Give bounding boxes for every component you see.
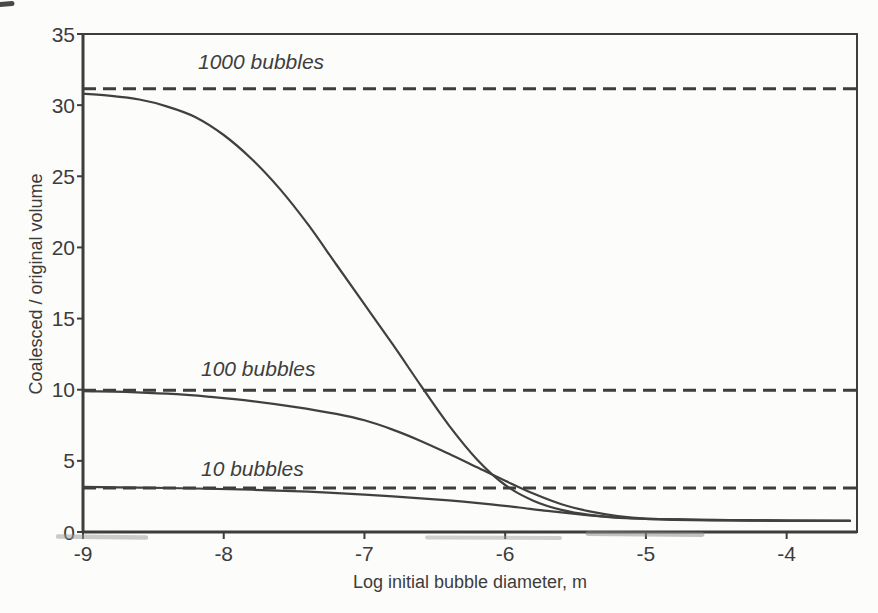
- plot-frame: [83, 34, 857, 532]
- x-tick-label: -9: [74, 542, 93, 565]
- scan-smudge-3: [588, 534, 702, 535]
- x-tick-label: -5: [637, 542, 656, 565]
- annotation-10-bubbles: 10 bubbles: [201, 458, 304, 479]
- series-curve-1000-bubbles: [83, 94, 850, 521]
- y-tick-label: 15: [52, 307, 75, 330]
- x-axis-title: Log initial bubble diameter, m: [83, 572, 857, 593]
- figure: -9-8-7-6-5-405101520253035 Log initial b…: [0, 0, 878, 613]
- y-tick-label: 0: [63, 521, 75, 544]
- y-tick-label: 30: [52, 94, 75, 117]
- bubble-coalescence-chart: -9-8-7-6-5-405101520253035: [0, 0, 878, 613]
- y-tick-label: 5: [63, 449, 75, 472]
- scan-smudge-1: [58, 537, 146, 538]
- scan-mark-top-left: [0, 4, 12, 5]
- y-tick-label: 20: [52, 236, 75, 259]
- scan-smudge-2: [427, 538, 560, 539]
- annotation-100-bubbles: 100 bubbles: [201, 358, 315, 379]
- annotation-1000-bubbles: 1000 bubbles: [198, 51, 324, 72]
- x-tick-label: -6: [496, 542, 515, 565]
- y-tick-label: 10: [52, 378, 75, 401]
- x-tick-label: -7: [355, 542, 374, 565]
- x-tick-label: -8: [214, 542, 233, 565]
- y-tick-label: 35: [52, 23, 75, 46]
- series-curve-10-bubbles: [83, 487, 850, 521]
- x-tick-label: -4: [777, 542, 796, 565]
- y-tick-label: 25: [52, 165, 75, 188]
- y-axis-title: Coalesced / original volume: [26, 173, 47, 394]
